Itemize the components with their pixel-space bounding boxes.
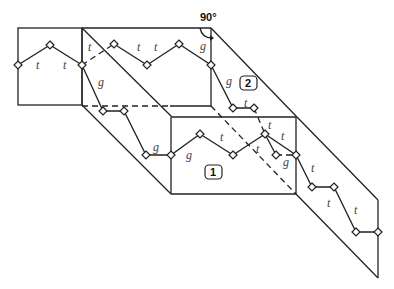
conformation-diagram: 90° 2 xyxy=(0,0,394,289)
bond-label: t xyxy=(220,130,224,144)
angle-indicator: 90° xyxy=(200,11,217,41)
atom-node xyxy=(46,41,54,49)
right-plane xyxy=(296,116,378,278)
bond-label: t xyxy=(63,58,67,72)
atom-node xyxy=(330,183,338,191)
atom-node xyxy=(229,151,237,159)
bond-label: g xyxy=(153,140,159,154)
bond-label: g xyxy=(226,74,232,88)
atom-node xyxy=(78,61,86,69)
bond-label: t xyxy=(88,40,92,54)
atom-node xyxy=(175,40,183,48)
atom-node xyxy=(14,61,22,69)
bond-label: t xyxy=(154,40,158,54)
polymer-chain xyxy=(18,44,378,232)
bond-label: t xyxy=(36,58,40,72)
plane-1-badge: 1 xyxy=(205,165,222,179)
atom-node xyxy=(308,183,316,191)
atom-node xyxy=(142,151,150,159)
atom-node xyxy=(352,228,360,236)
bond-label: t xyxy=(311,161,315,175)
plane-1-label: 1 xyxy=(210,166,216,178)
angle-label: 90° xyxy=(200,11,217,23)
bond-label: g xyxy=(186,148,192,162)
atom-node xyxy=(292,151,300,159)
bond-label: g xyxy=(98,75,104,89)
plane-2-label: 2 xyxy=(245,77,251,89)
bond-label: t xyxy=(137,40,141,54)
bond-label: g xyxy=(283,155,289,169)
bond-label: t xyxy=(256,142,260,156)
atom-node xyxy=(207,61,215,69)
atom-node xyxy=(99,107,107,115)
left-plane xyxy=(18,28,82,105)
atom-node xyxy=(120,107,128,115)
bond-label: t xyxy=(281,129,285,143)
atom-node xyxy=(250,104,258,112)
atom-node xyxy=(110,40,118,48)
plane-2-badge: 2 xyxy=(240,76,257,90)
atom-node xyxy=(272,151,280,159)
bond-label: g xyxy=(200,39,206,53)
atom-node xyxy=(374,228,382,236)
bond-label: t xyxy=(354,203,358,217)
bond-label: t xyxy=(268,118,272,132)
atom-node xyxy=(143,61,151,69)
bond-label: t xyxy=(327,196,331,210)
atom-node xyxy=(229,104,237,112)
